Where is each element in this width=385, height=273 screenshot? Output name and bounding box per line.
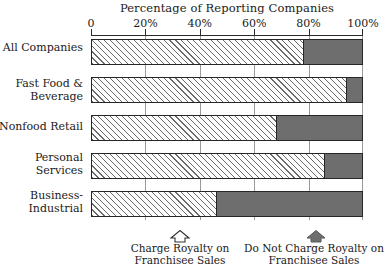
x-tick-label-100: 100% (347, 17, 378, 30)
table-row (91, 153, 363, 179)
bar-segment-charge-royalty (92, 40, 303, 64)
bar-segment-no-royalty (346, 78, 362, 102)
x-axis-tick-100 (362, 29, 363, 36)
x-axis-tick-80 (309, 29, 310, 36)
x-axis-tick-20 (145, 29, 146, 36)
x-axis-tick-40 (200, 29, 201, 36)
bar-segment-no-royalty (324, 154, 362, 178)
bar-segment-no-royalty (303, 40, 362, 64)
bar-segment-charge-royalty (92, 192, 216, 216)
bar-segment-no-royalty (276, 116, 362, 140)
category-label-personal-services: Personal Services (0, 152, 83, 177)
bar-segment-charge-royalty (92, 78, 346, 102)
category-label-fast-food-beverage: Fast Food & Beverage (0, 78, 83, 103)
x-axis-tick-0 (91, 29, 92, 36)
table-row (91, 77, 363, 103)
stacked-bar-chart: Percentage of Reporting Companies 0 20% … (0, 0, 385, 273)
category-label-all-companies: All Companies (0, 42, 83, 55)
bar-segment-charge-royalty (92, 154, 324, 178)
solid-up-arrow-icon (306, 228, 326, 241)
table-row (91, 191, 363, 217)
bar-segment-no-royalty (216, 192, 362, 216)
category-label-nonfood-retail: Nonfood Retail (0, 121, 83, 134)
bar-segment-charge-royalty (92, 116, 276, 140)
legend-item-charge-royalty: Charge Royalty on Franchisee Sales (118, 242, 242, 266)
chart-title: Percentage of Reporting Companies (91, 1, 363, 15)
x-axis-line (91, 35, 363, 36)
category-label-business-industrial: Business- Industrial (0, 190, 83, 215)
legend-item-do-not-charge-royalty: Do Not Charge Royalty on Franchisee Sale… (243, 242, 385, 266)
x-axis-tick-60 (254, 29, 255, 36)
hollow-up-arrow-icon (170, 228, 190, 241)
table-row (91, 39, 363, 65)
plot-area (91, 36, 363, 220)
table-row (91, 115, 363, 141)
